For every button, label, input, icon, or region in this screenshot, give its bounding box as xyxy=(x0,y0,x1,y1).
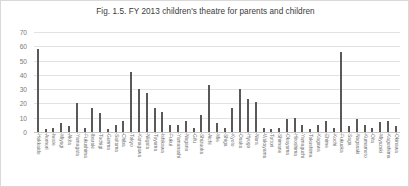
x-axis-label-slot: Iwate xyxy=(50,134,58,186)
x-axis-label-slot: Shizuoka xyxy=(197,134,205,186)
x-axis-tick-label: Miyazaki xyxy=(378,134,383,153)
x-axis-tick-label: Shizuoka xyxy=(199,134,204,154)
x-axis-label-slot: Kagoshima xyxy=(384,134,392,186)
x-axis-label-slot: Yamanashi xyxy=(174,134,182,186)
bar xyxy=(169,125,171,132)
x-axis-tick-label: Yamagata xyxy=(74,134,79,156)
bar-slot xyxy=(345,32,353,132)
x-axis-tick-label: Nagano xyxy=(183,134,188,151)
x-axis-label-slot: Fukushima xyxy=(81,134,89,186)
x-axis-tick-label: Kanagawa xyxy=(137,134,142,157)
bar-slot xyxy=(73,32,81,132)
x-axis-tick-label: Chiba xyxy=(121,134,126,147)
bar xyxy=(60,123,62,132)
x-axis-label-slot: Akita xyxy=(65,134,73,186)
y-axis-tick-label: 40 xyxy=(1,71,27,78)
y-axis-tick-label: 30 xyxy=(1,86,27,93)
x-axis-tick-label: Tokyo xyxy=(129,134,134,147)
x-axis-label-slot: Oita xyxy=(369,134,377,186)
x-axis-label-slot: Aichi xyxy=(205,134,213,186)
bar xyxy=(76,103,78,132)
x-axis-tick-label: Nara xyxy=(253,134,258,145)
bar-slot xyxy=(369,32,377,132)
bar xyxy=(91,108,93,132)
bar xyxy=(239,89,241,132)
bar-slot xyxy=(361,32,369,132)
bar xyxy=(208,85,210,132)
x-axis-tick-label: Shiga xyxy=(222,134,227,147)
bar xyxy=(379,122,381,132)
y-axis-tick-label: 70 xyxy=(1,29,27,36)
bar-slot xyxy=(143,32,151,132)
bar xyxy=(130,72,132,132)
x-axis-tick-label: Fukui xyxy=(168,134,173,146)
y-axis-tick-label: 60 xyxy=(1,43,27,50)
x-axis-label-slot: Hiroshima xyxy=(291,134,299,186)
x-axis-label-slot: Yamaguchi xyxy=(299,134,307,186)
bar xyxy=(99,113,101,132)
x-axis-tick-label: Iwate xyxy=(51,134,56,146)
bar-slot xyxy=(120,32,128,132)
x-axis-label-slot: Ishikawa xyxy=(159,134,167,186)
x-axis-label-slot: Shimane xyxy=(275,134,283,186)
y-axis-tick-label: 20 xyxy=(1,100,27,107)
bar xyxy=(177,125,179,132)
x-axis-tick-label: Fukuoka xyxy=(339,134,344,153)
x-axis-tick-label: Kyoto xyxy=(230,134,235,147)
x-axis-tick-label: Tochigi xyxy=(98,134,103,149)
bar xyxy=(364,125,366,132)
x-axis-tick-label: Shimane xyxy=(277,134,282,153)
x-axis-tick-label: Mie xyxy=(214,134,219,142)
x-axis-label-slot: Fukui xyxy=(166,134,174,186)
x-axis-tick-label: Wakayama xyxy=(261,134,266,158)
x-axis-tick-label: Nagasaki xyxy=(354,134,359,154)
x-axis-label-slot: Tochigi xyxy=(96,134,104,186)
bar-slot xyxy=(229,32,237,132)
x-axis-label-slot: Tokyo xyxy=(127,134,135,186)
x-axis-tick-label: Niigata xyxy=(144,134,149,149)
x-axis-label-slot: Osaka xyxy=(236,134,244,186)
plot-area xyxy=(34,32,400,132)
bar-slot xyxy=(174,32,182,132)
bar-slot xyxy=(151,32,159,132)
x-axis-label-slot: Saga xyxy=(345,134,353,186)
x-axis-label-slot: Wakayama xyxy=(260,134,268,186)
bar-slot xyxy=(275,32,283,132)
bar-slot xyxy=(306,32,314,132)
bar-slot xyxy=(57,32,65,132)
bar-slot xyxy=(322,32,330,132)
bar xyxy=(122,121,124,132)
x-axis-label-slot: Kagawa xyxy=(314,134,322,186)
x-axis-tick-label: Ehime xyxy=(323,134,328,148)
x-axis-tick-label: Tokushima xyxy=(308,134,313,157)
bar-slot xyxy=(104,32,112,132)
x-axis-tick-label: Yamanashi xyxy=(175,134,180,158)
x-axis-tick-label: Kochi xyxy=(331,134,336,146)
bar-slot xyxy=(236,32,244,132)
bar-slot xyxy=(182,32,190,132)
bar-slot xyxy=(291,32,299,132)
bar xyxy=(146,93,148,132)
x-axis-tick-label: Miyagi xyxy=(59,134,64,148)
bar-slot xyxy=(330,32,338,132)
x-axis-tick-label: Kagawa xyxy=(316,134,321,152)
x-axis-tick-label: Saitama xyxy=(113,134,118,152)
bar xyxy=(387,121,389,132)
bar-slot xyxy=(112,32,120,132)
bar xyxy=(216,123,218,132)
x-axis-label-slot: Ibaraki xyxy=(88,134,96,186)
bar xyxy=(325,121,327,132)
x-axis-label-slot: Shiga xyxy=(221,134,229,186)
x-axis-label-slot: Ehime xyxy=(322,134,330,186)
bar-slot xyxy=(50,32,58,132)
bar-slot xyxy=(197,32,205,132)
bar xyxy=(301,125,303,132)
bar xyxy=(317,125,319,132)
x-axis-label-slot: Kumamoto xyxy=(361,134,369,186)
chart-container: Fig. 1.5. FY 2013 children's theatre for… xyxy=(0,0,409,187)
bar xyxy=(138,89,140,132)
bar xyxy=(37,49,39,132)
bar-slot xyxy=(244,32,252,132)
bar-slot xyxy=(392,32,400,132)
bar-slot xyxy=(127,32,135,132)
